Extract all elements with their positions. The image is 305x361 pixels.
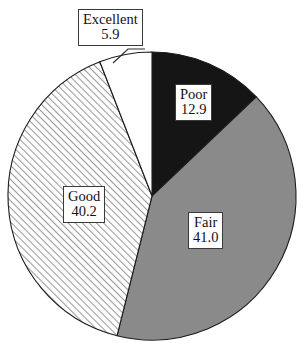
pie-chart-canvas [0,0,305,361]
pie-label-fair-value: 41.0 [193,230,218,245]
pie-chart: Excellent 5.9 Poor 12.9 Fair 41.0 Good 4… [0,0,305,361]
pie-slices [8,52,296,340]
pie-label-excellent-name: Excellent [83,12,138,27]
pie-label-excellent: Excellent 5.9 [78,9,143,46]
pie-label-poor: Poor 12.9 [175,84,212,121]
pie-label-excellent-value: 5.9 [83,27,138,42]
pie-label-poor-value: 12.9 [180,102,207,117]
pie-label-poor-name: Poor [180,87,207,102]
pie-label-good-name: Good [68,189,100,204]
pie-label-good: Good 40.2 [63,186,105,223]
pie-label-fair: Fair 41.0 [188,212,223,249]
pie-label-good-value: 40.2 [68,204,100,219]
pie-label-fair-name: Fair [193,215,218,230]
